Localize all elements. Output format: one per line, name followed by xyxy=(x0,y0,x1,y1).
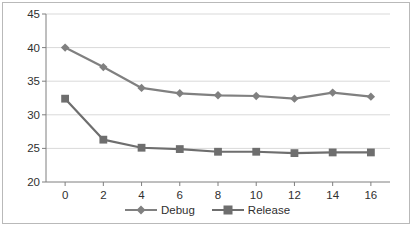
legend-item-debug[interactable]: Debug xyxy=(124,204,195,216)
legend-label-debug: Debug xyxy=(161,204,195,216)
data-point-marker xyxy=(214,148,222,156)
y-axis-tick-label: 40 xyxy=(4,42,40,54)
data-point-marker xyxy=(252,148,260,156)
y-axis-ticks xyxy=(42,14,46,182)
data-point-marker xyxy=(328,88,336,96)
data-point-marker xyxy=(367,149,375,157)
chart-legend: Debug Release xyxy=(0,200,414,220)
legend-label-release: Release xyxy=(248,204,290,216)
legend-item-release[interactable]: Release xyxy=(211,204,290,216)
square-marker-icon xyxy=(211,204,245,216)
data-point-marker xyxy=(138,144,146,152)
y-axis-tick-label: 45 xyxy=(4,8,40,20)
y-axis-tick-label: 25 xyxy=(4,142,40,154)
chart-container: 202530354045 0246810121416 Debug Release xyxy=(0,0,414,230)
series-release xyxy=(61,95,375,157)
x-axis-ticks xyxy=(65,182,371,186)
y-axis-tick-label: 20 xyxy=(4,176,40,188)
y-axis-tick-label: 30 xyxy=(4,109,40,121)
gridlines xyxy=(46,14,390,148)
diamond-marker-icon xyxy=(124,204,158,216)
data-point-marker xyxy=(99,63,107,71)
series-debug xyxy=(61,43,375,102)
data-point-marker xyxy=(290,94,298,102)
data-point-marker xyxy=(252,92,260,100)
data-series-layer xyxy=(61,43,375,157)
data-point-marker xyxy=(367,92,375,100)
y-axis-tick-label: 35 xyxy=(4,75,40,87)
data-point-marker xyxy=(99,136,107,144)
data-point-marker xyxy=(214,91,222,99)
data-point-marker xyxy=(61,95,69,103)
data-point-marker xyxy=(61,43,69,51)
data-point-marker xyxy=(329,149,337,157)
data-point-marker xyxy=(176,89,184,97)
data-point-marker xyxy=(137,84,145,92)
data-point-marker xyxy=(291,149,299,157)
data-point-marker xyxy=(176,145,184,153)
